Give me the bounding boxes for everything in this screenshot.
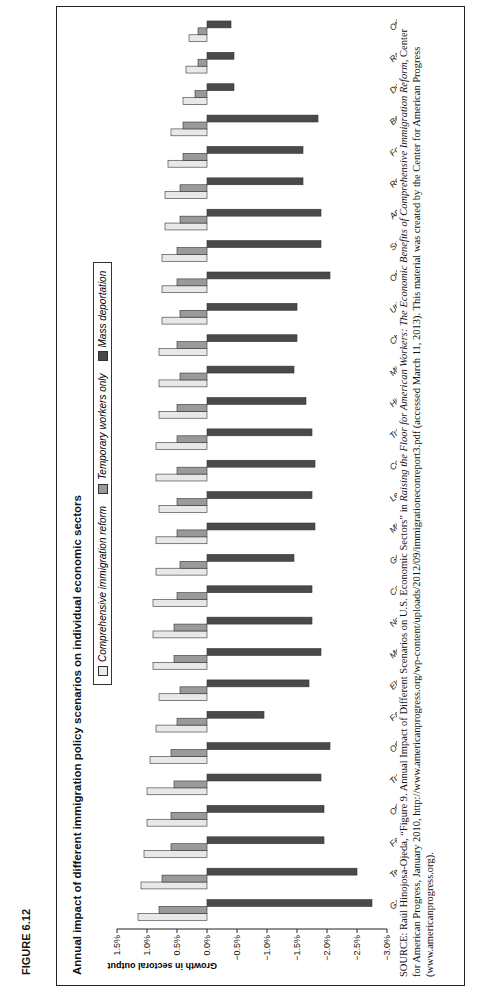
bar: [156, 725, 207, 732]
bar: [162, 317, 207, 324]
category-label: Leather, wood and paper products: [387, 405, 397, 504]
category-label: Garments: [387, 877, 397, 911]
bar: [153, 662, 207, 669]
bar: [207, 21, 231, 28]
bar: [153, 631, 207, 638]
bar: [156, 537, 207, 544]
bar: [189, 35, 207, 42]
bar: [207, 460, 315, 467]
bar: [165, 223, 207, 230]
figure-frame: Annual impact of different immigration p…: [56, 6, 465, 986]
bar: [147, 819, 207, 826]
category-label: Factor-skilled labor: [387, 665, 397, 724]
bar: [177, 718, 207, 725]
bar: [153, 600, 207, 607]
category-label: Trade and transport: [387, 381, 397, 441]
bar: [174, 655, 207, 662]
bar: [207, 429, 312, 436]
bar: [171, 750, 207, 757]
category-label: Sugar: [387, 228, 397, 252]
bar: [177, 436, 207, 443]
bar: [207, 84, 234, 91]
y-tick-label: 0.5%: [172, 935, 182, 956]
bar: [156, 443, 207, 450]
category-label: Electronic equipment: [387, 628, 397, 692]
bar: [159, 380, 207, 387]
bar: [171, 844, 207, 851]
category-label: Nonelectric machinery and equipment: [387, 521, 397, 629]
bar: [177, 248, 207, 255]
bar: [180, 561, 207, 568]
bar: [207, 366, 294, 373]
bar: [207, 868, 357, 875]
y-tick-label: −1.0%: [262, 935, 272, 961]
y-tick-label: 1.5%: [112, 935, 122, 956]
y-tick-label: −3.0%: [382, 935, 392, 961]
bar: [195, 91, 207, 98]
bar: [207, 492, 312, 499]
y-tick-label: −0.5%: [232, 935, 242, 961]
bar: [147, 788, 207, 795]
bar: [177, 467, 207, 474]
bar: [156, 568, 207, 575]
bar: [159, 505, 207, 512]
bar: [180, 310, 207, 317]
bar: [198, 59, 207, 66]
category-label: Dwellings: [387, 62, 397, 95]
bar: [198, 28, 207, 35]
bar: [207, 711, 264, 718]
bar: [207, 209, 321, 216]
bar: [186, 66, 207, 73]
figure-label: FIGURE 6.12: [20, 909, 32, 975]
bar: [183, 122, 207, 129]
bar: [177, 404, 207, 411]
category-label: Mining: [387, 353, 397, 378]
bar: [177, 593, 207, 600]
bar: [207, 586, 312, 593]
bar: [183, 98, 207, 105]
bar: [168, 160, 207, 167]
bar: [207, 398, 306, 405]
bar: [159, 694, 207, 701]
bar: [171, 812, 207, 819]
y-tick-label: −2.5%: [352, 935, 362, 961]
bar: [162, 254, 207, 261]
source-prefix: SOURCE:: [398, 933, 409, 977]
category-label: Textiles: [387, 852, 397, 880]
bar: [177, 530, 207, 537]
bar: [162, 875, 207, 882]
bar: [165, 192, 207, 199]
bar: [180, 216, 207, 223]
bar: [207, 178, 303, 185]
bar: [207, 743, 330, 750]
bar: [177, 342, 207, 349]
bar: [141, 882, 207, 889]
y-tick-label: 1.0%: [142, 935, 152, 956]
bar: [144, 851, 207, 858]
bar: [207, 774, 321, 781]
bar: [150, 756, 207, 763]
y-tick-label: −1.5%: [292, 935, 302, 961]
category-label: Other agriculture: [387, 7, 397, 33]
bar: [207, 554, 294, 561]
bar: [174, 781, 207, 788]
rotated-figure: Annual impact of different immigration p…: [56, 6, 465, 986]
bar: [207, 837, 324, 844]
bar: [207, 900, 372, 907]
bar: [207, 617, 312, 624]
bar: [207, 241, 321, 248]
bar: [162, 286, 207, 293]
bar: [159, 906, 207, 913]
bar: [207, 272, 330, 279]
bar: [180, 373, 207, 380]
bar: [174, 624, 207, 631]
bar: [159, 349, 207, 356]
bar: [180, 185, 207, 192]
source-publication-title: Raising the Floor for American Workers: …: [398, 62, 409, 501]
bar: [177, 279, 207, 286]
bar: [171, 129, 207, 136]
bar: [207, 303, 297, 310]
figure-box: Annual impact of different immigration p…: [56, 6, 465, 986]
bar: [207, 115, 318, 122]
bar: [207, 523, 315, 530]
